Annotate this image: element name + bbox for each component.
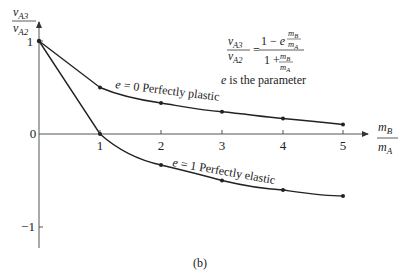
svg-text:vA2: vA2: [228, 50, 243, 65]
svg-text:mA: mA: [280, 62, 290, 73]
x-tick-label-4: 4: [280, 138, 287, 153]
svg-text:mB: mB: [280, 51, 290, 62]
svg-text:mA: mA: [378, 140, 393, 156]
svg-text:1 +: 1 +: [264, 53, 280, 67]
x-tick-label-2: 2: [158, 138, 165, 153]
x-tick-label-1: 1: [97, 138, 104, 153]
svg-text:=: =: [253, 43, 260, 57]
series-label-perfectly-elastic: e = 1 Perfectly elastic: [171, 155, 276, 187]
svg-text:mA: mA: [288, 39, 298, 50]
x-tick-label-5: 5: [340, 138, 347, 153]
svg-text:vA3: vA3: [228, 35, 243, 50]
svg-text:1 − e: 1 − e: [261, 34, 286, 48]
svg-text:mB: mB: [378, 120, 393, 136]
figure-caption: (b): [193, 256, 207, 270]
series-label-perfectly-plastic: e = 0 Perfectly plastic: [115, 77, 221, 104]
y-tick-label-neg1: −1: [21, 219, 35, 234]
y-tick-label-0: 0: [30, 126, 37, 141]
x-axis-label: mB mA: [377, 120, 398, 156]
svg-text:vA3: vA3: [13, 5, 29, 21]
x-tick-label-3: 3: [219, 138, 226, 153]
series-perfectly-elastic-line: [39, 41, 343, 196]
svg-text:vA2: vA2: [13, 21, 29, 37]
x-ticks: [100, 130, 343, 134]
chart-canvas: 1 0 −1 1 2 3 4 5 vA3 vA2 mB mA: [0, 0, 403, 276]
y-axis-label: vA3 vA2: [12, 5, 36, 37]
svg-text:mB: mB: [288, 28, 298, 39]
formula-annotation: vA3 vA2 = 1 − e mB mA 1 + mB mA e is t: [221, 28, 306, 87]
svg-text:e is the parameter: e is the parameter: [221, 73, 306, 87]
